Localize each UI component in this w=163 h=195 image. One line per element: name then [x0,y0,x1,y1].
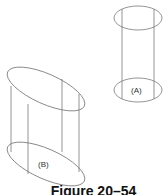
cylinder-b-label: (B) [38,160,49,169]
cylinder-a-label: (A) [131,86,142,95]
cylinders-drawing: (A) (B) [0,0,163,195]
cylinder-a: (A) [114,6,162,102]
cylinder-b: (B) [2,58,91,195]
cylinder-b-top-ellipse [2,58,91,120]
cylinder-a-top-ellipse [114,6,162,30]
figure-caption: Figure 20–54 [0,183,163,195]
figure: (A) (B) Figure 20–54 [0,0,163,195]
